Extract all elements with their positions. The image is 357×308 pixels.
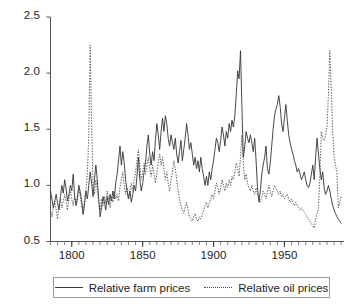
- chart-figure: 0.51.01.52.02.5 1800185019001950 Relativ…: [0, 0, 357, 308]
- legend-label-oil: Relative oil prices: [238, 282, 328, 294]
- y-tick-label: 2.0: [6, 65, 40, 77]
- x-tick-label: 1900: [191, 249, 237, 261]
- y-tick-label: 0.5: [6, 234, 40, 246]
- chart-series-group: [51, 45, 342, 228]
- y-tick-label: 2.5: [6, 9, 40, 21]
- x-tick-label: 1800: [49, 249, 95, 261]
- y-tick-label: 1.5: [6, 121, 40, 133]
- chart-plot-area: [0, 0, 357, 308]
- x-tick-label: 1850: [120, 249, 166, 261]
- legend-label-farm: Relative farm prices: [89, 282, 191, 294]
- chart-axes: [51, 17, 345, 242]
- x-tick-label: 1950: [261, 249, 307, 261]
- chart-legend: Relative farm prices Relative oil prices: [53, 277, 330, 298]
- x-axis-minor-ticks: [51, 242, 342, 246]
- series-line-farm: [51, 51, 342, 224]
- legend-line-solid-icon: [55, 287, 83, 289]
- legend-line-dotted-icon: [204, 287, 232, 289]
- y-tick-label: 1.0: [6, 177, 40, 189]
- series-line-oil: [51, 45, 342, 228]
- legend-item-oil[interactable]: Relative oil prices: [197, 282, 335, 294]
- y-axis-major-ticks: [47, 17, 51, 242]
- legend-item-farm[interactable]: Relative farm prices: [48, 282, 198, 294]
